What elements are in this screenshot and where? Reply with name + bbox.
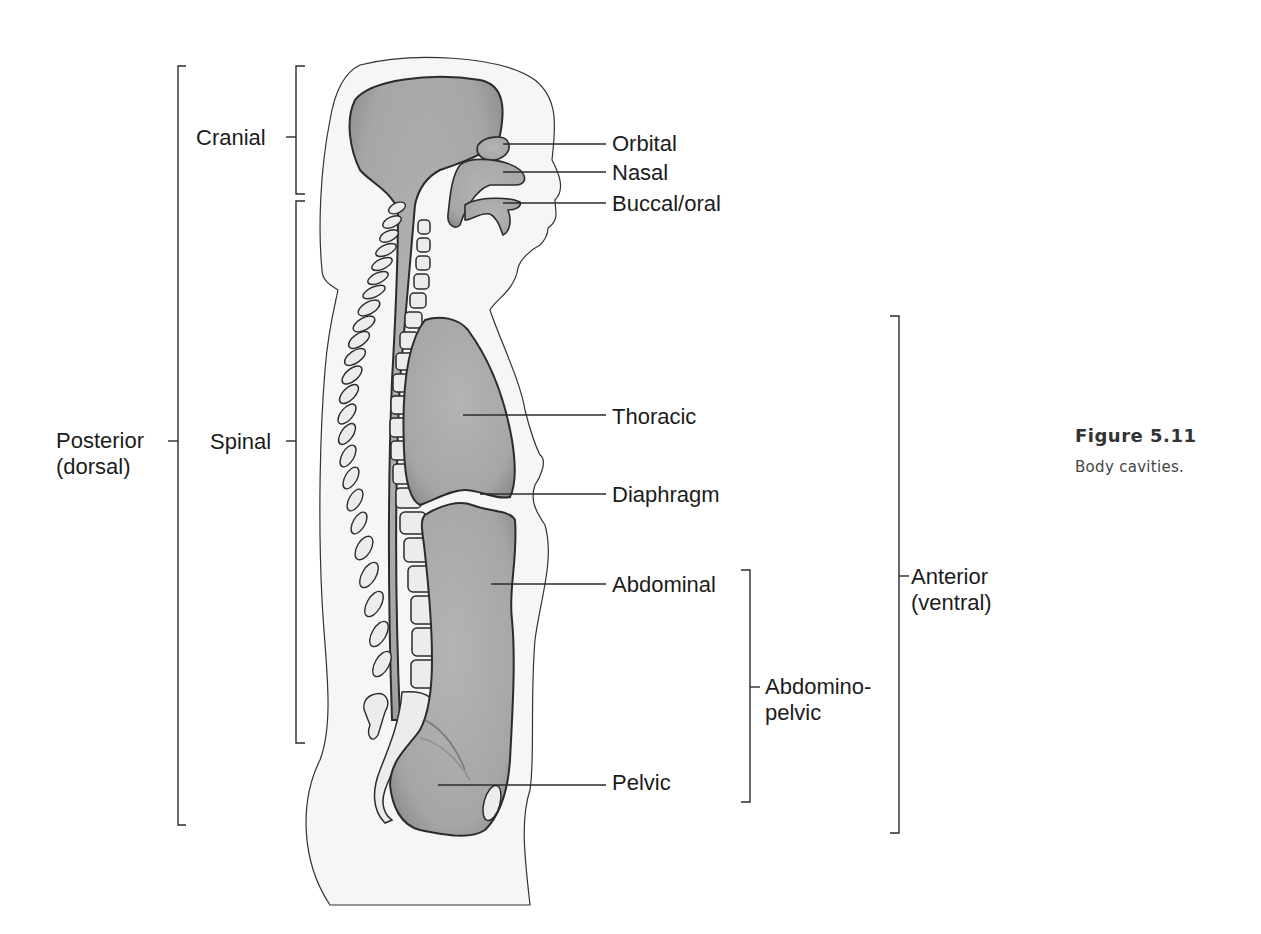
label-abdominal: Abdominal [612, 572, 716, 598]
label-abdominopelvic-line2: pelvic [765, 700, 871, 726]
label-cranial: Cranial [196, 125, 266, 151]
label-diaphragm: Diaphragm [612, 482, 720, 508]
figure-caption-title: Figure 5.11 [1075, 425, 1196, 446]
label-thoracic: Thoracic [612, 404, 696, 430]
label-posterior-line2: (dorsal) [56, 454, 144, 480]
label-nasal: Nasal [612, 160, 668, 186]
label-buccal: Buccal/oral [612, 191, 721, 217]
label-posterior: Posterior (dorsal) [56, 428, 144, 480]
posterior-bracket [178, 66, 186, 825]
label-anterior: Anterior (ventral) [911, 564, 992, 616]
label-abdominopelvic-line1: Abdomino- [765, 674, 871, 700]
label-anterior-line2: (ventral) [911, 590, 992, 616]
label-orbital: Orbital [612, 131, 677, 157]
figure-caption-text: Body cavities. [1075, 458, 1184, 476]
label-posterior-line1: Posterior [56, 428, 144, 454]
anterior-bracket [890, 316, 899, 833]
label-pelvic: Pelvic [612, 770, 671, 796]
label-anterior-line1: Anterior [911, 564, 992, 590]
label-spinal: Spinal [210, 429, 271, 455]
cranial-bracket [296, 66, 305, 194]
label-abdominopelvic: Abdomino- pelvic [765, 674, 871, 726]
spinal-bracket [296, 201, 305, 743]
abdominopelvic-bracket [741, 570, 750, 802]
